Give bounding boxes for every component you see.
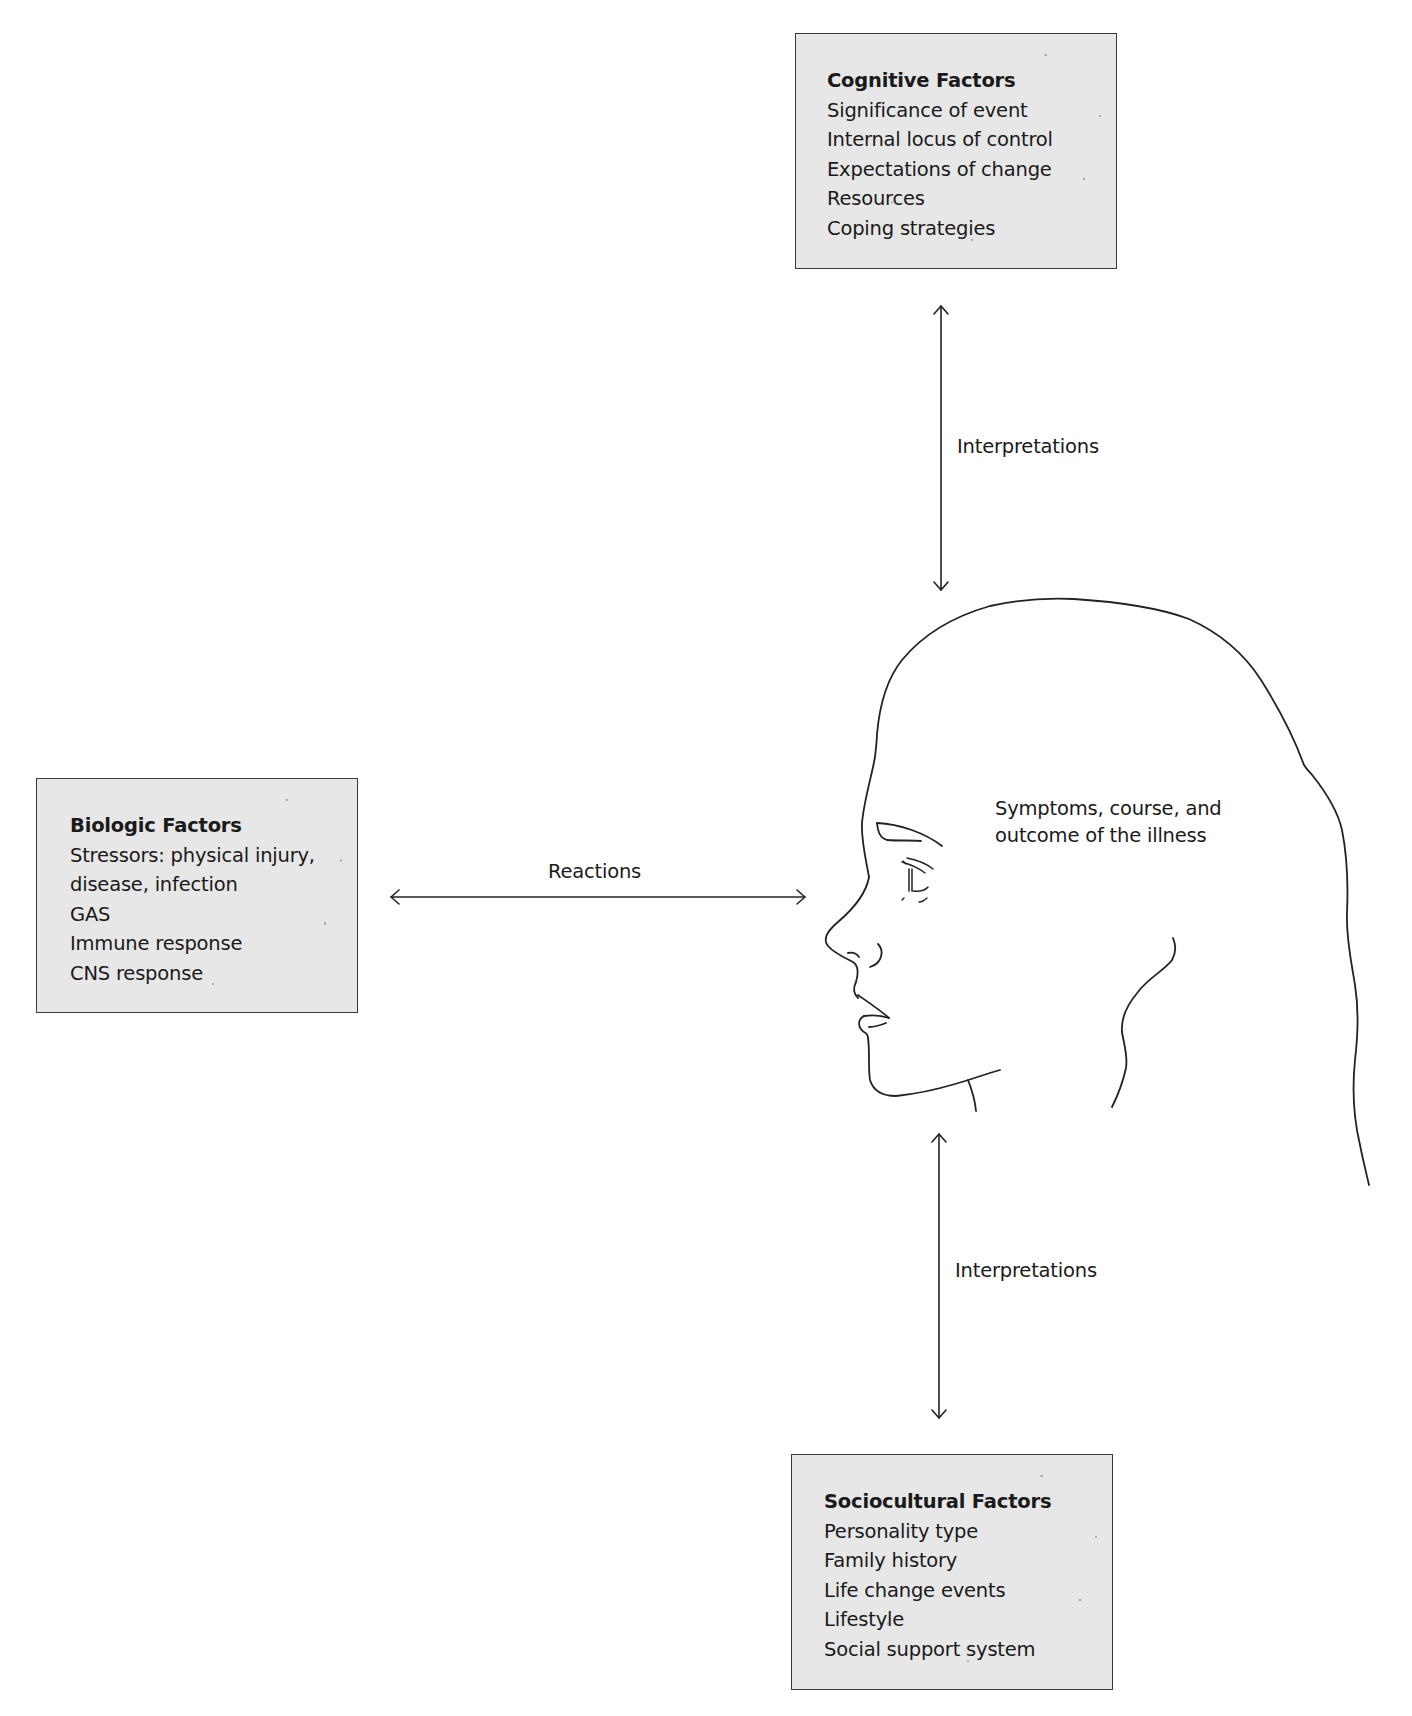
biologic-factor-item: GAS (70, 900, 315, 930)
sociocultural-factor-item: Social support system (824, 1635, 1051, 1665)
sociocultural-factor-item: Life change events (824, 1576, 1051, 1606)
head-profile-icon (826, 599, 1369, 1185)
biologic-factor-item: disease, infection (70, 870, 315, 900)
cognitive-factor-item: Coping strategies (827, 214, 1053, 244)
biologic-factor-item: Immune response (70, 929, 315, 959)
cognitive-factor-item: Expectations of change (827, 155, 1053, 185)
illness-outcome-label: Symptoms, course, and outcome of the ill… (995, 795, 1222, 849)
bottom-interpretations-label: Interpretations (955, 1259, 1097, 1282)
biologic-factor-item: CNS response (70, 959, 315, 989)
sociocultural-factor-item: Personality type (824, 1517, 1051, 1547)
cognitive-factors-box: Cognitive Factors Significance of event … (795, 33, 1117, 269)
illness-outcome-label-line: outcome of the illness (995, 822, 1222, 849)
sociocultural-factors-title: Sociocultural Factors (824, 1487, 1051, 1517)
cognitive-factor-item: Significance of event (827, 96, 1053, 126)
bottom-interpretations-arrow (932, 1134, 946, 1418)
biologic-factors-box: Biologic Factors Stressors: physical inj… (36, 778, 358, 1013)
cognitive-factor-item: Resources (827, 184, 1053, 214)
cognitive-factor-item: Internal locus of control (827, 125, 1053, 155)
top-interpretations-label: Interpretations (957, 435, 1099, 458)
sociocultural-factor-item: Lifestyle (824, 1605, 1051, 1635)
top-interpretations-arrow (934, 306, 948, 590)
reactions-arrow (391, 890, 805, 904)
sociocultural-factor-item: Family history (824, 1546, 1051, 1576)
reactions-label: Reactions (548, 860, 641, 883)
biologic-factors-title: Biologic Factors (70, 811, 315, 841)
sociocultural-factors-box: Sociocultural Factors Personality type F… (791, 1454, 1113, 1690)
cognitive-factors-title: Cognitive Factors (827, 66, 1053, 96)
biologic-factor-item: Stressors: physical injury, (70, 841, 315, 871)
illness-outcome-label-line: Symptoms, course, and (995, 795, 1222, 822)
